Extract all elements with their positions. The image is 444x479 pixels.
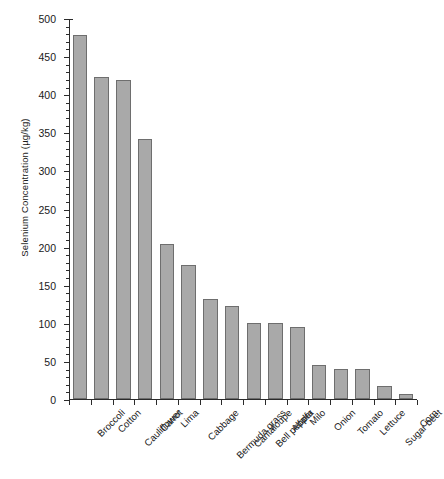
- y-axis-minor-tick: [66, 301, 70, 302]
- y-axis-minor-tick: [66, 354, 70, 355]
- bar: [160, 244, 174, 399]
- y-axis-minor-tick: [66, 194, 70, 195]
- y-axis-minor-tick: [66, 255, 70, 256]
- x-axis-tick-label: Cabbage: [205, 407, 240, 442]
- y-axis-minor-tick: [66, 103, 70, 104]
- clipped-caption-strip: [0, 0, 430, 7]
- y-axis-minor-tick: [66, 88, 70, 89]
- y-axis-major-tick: 300: [64, 171, 70, 172]
- y-axis-minor-tick: [66, 225, 70, 226]
- y-axis-tick-label: 500: [38, 13, 56, 25]
- bar: [290, 327, 304, 399]
- x-axis-tick: [308, 400, 309, 405]
- y-axis-minor-tick: [66, 187, 70, 188]
- y-axis-minor-tick: [66, 149, 70, 150]
- y-axis-tick-label: 100: [38, 318, 56, 330]
- y-axis-minor-tick: [66, 263, 70, 264]
- bar: [247, 323, 261, 399]
- y-axis-minor-tick: [66, 309, 70, 310]
- x-axis-tick: [69, 400, 70, 405]
- y-axis-tick-label: 200: [38, 242, 56, 254]
- y-axis-major-tick: 250: [64, 210, 70, 211]
- y-axis-minor-tick: [66, 347, 70, 348]
- bar: [268, 323, 282, 399]
- x-axis-tick: [287, 400, 288, 405]
- x-axis-tick: [265, 400, 266, 405]
- y-axis-tick-label: 150: [38, 280, 56, 292]
- y-axis-minor-tick: [66, 110, 70, 111]
- bar: [312, 365, 326, 399]
- y-axis-minor-tick: [66, 278, 70, 279]
- y-axis-minor-tick: [66, 164, 70, 165]
- y-axis-major-tick: 450: [64, 57, 70, 58]
- y-axis-minor-tick: [66, 217, 70, 218]
- y-axis-major-tick: 400: [64, 95, 70, 96]
- x-axis-tick: [330, 400, 331, 405]
- y-axis-minor-tick: [66, 392, 70, 393]
- y-axis-minor-tick: [66, 179, 70, 180]
- bar: [203, 299, 217, 399]
- x-axis-tick: [156, 400, 157, 405]
- y-axis-major-tick: 500: [64, 19, 70, 20]
- bar: [225, 306, 239, 399]
- y-axis-minor-tick: [66, 232, 70, 233]
- x-axis-tick: [221, 400, 222, 405]
- y-axis-minor-tick: [66, 385, 70, 386]
- y-axis-minor-tick: [66, 49, 70, 50]
- y-axis-minor-tick: [66, 370, 70, 371]
- y-axis-minor-tick: [66, 293, 70, 294]
- y-axis-minor-tick: [66, 240, 70, 241]
- y-axis-minor-tick: [66, 377, 70, 378]
- y-axis-major-tick: 350: [64, 133, 70, 134]
- plot-area: 050100150200250300350400450500 BroccoliC…: [69, 19, 417, 400]
- y-axis-minor-tick: [66, 156, 70, 157]
- y-axis-tick-label: 50: [44, 356, 56, 368]
- y-axis-minor-tick: [66, 126, 70, 127]
- y-axis-tick-label: 450: [38, 51, 56, 63]
- y-axis-minor-tick: [66, 72, 70, 73]
- x-axis-tick: [417, 400, 418, 405]
- y-axis-minor-tick: [66, 118, 70, 119]
- bar: [355, 369, 369, 399]
- x-axis-tick: [91, 400, 92, 405]
- y-axis-minor-tick: [66, 34, 70, 35]
- x-axis-tick: [395, 400, 396, 405]
- y-axis-minor-tick: [66, 331, 70, 332]
- y-axis-minor-tick: [66, 339, 70, 340]
- x-axis-tick: [113, 400, 114, 405]
- x-axis-tick: [352, 400, 353, 405]
- y-axis-major-tick: 100: [64, 324, 70, 325]
- bar: [399, 394, 413, 399]
- bar: [116, 80, 130, 399]
- y-axis-minor-tick: [66, 42, 70, 43]
- x-axis-tick: [200, 400, 201, 405]
- x-axis-tick-label: Onion: [332, 407, 358, 433]
- x-axis-tick: [374, 400, 375, 405]
- x-axis-tick: [243, 400, 244, 405]
- y-axis-minor-tick: [66, 141, 70, 142]
- y-axis-tick-label: 350: [38, 127, 56, 139]
- y-axis-minor-tick: [66, 65, 70, 66]
- y-axis-major-tick: 150: [64, 286, 70, 287]
- y-axis-minor-tick: [66, 270, 70, 271]
- y-axis-tick-label: 300: [38, 165, 56, 177]
- x-axis-tick: [178, 400, 179, 405]
- bar: [377, 386, 391, 399]
- y-axis-title: Selenium Concentration (µg/kg): [19, 68, 30, 308]
- y-axis-major-tick: 50: [64, 362, 70, 363]
- bar: [181, 265, 195, 399]
- y-axis-minor-tick: [66, 316, 70, 317]
- y-axis-minor-tick: [66, 27, 70, 28]
- y-axis-major-tick: 200: [64, 248, 70, 249]
- y-axis-tick-label: 400: [38, 89, 56, 101]
- x-axis-tick: [134, 400, 135, 405]
- bar: [94, 77, 108, 399]
- y-axis-minor-tick: [66, 202, 70, 203]
- bar: [334, 369, 348, 399]
- y-axis-minor-tick: [66, 80, 70, 81]
- bar: [138, 139, 152, 399]
- bar: [73, 35, 87, 399]
- y-axis-tick-label: 0: [50, 394, 56, 406]
- y-axis-tick-label: 250: [38, 204, 56, 216]
